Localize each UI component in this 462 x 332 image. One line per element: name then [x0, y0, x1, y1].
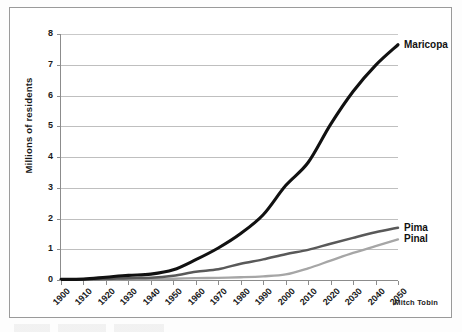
- y-tick-label-5: 5: [29, 121, 53, 130]
- series-label-pima: Pima: [404, 222, 428, 233]
- x-tick-mark-2050: [398, 281, 399, 285]
- y-tick-mark-1: [57, 249, 61, 250]
- x-tick-mark-1960: [196, 281, 197, 285]
- x-tick-mark-1940: [151, 281, 152, 285]
- x-tick-label-1940: 1940: [135, 286, 162, 313]
- x-tick-label-1910: 1910: [68, 286, 95, 313]
- x-tick-mark-1970: [218, 281, 219, 285]
- y-tick-label-0: 0: [29, 275, 53, 284]
- y-axis-tick-labels: 012345678: [29, 8, 53, 308]
- y-tick-mark-7: [57, 65, 61, 66]
- series-label-maricopa: Maricopa: [404, 39, 448, 50]
- x-tick-label-1920: 1920: [90, 286, 117, 313]
- y-tick-mark-0: [57, 280, 61, 281]
- y-tick-label-1: 1: [29, 244, 53, 253]
- x-tick-label-1990: 1990: [247, 286, 274, 313]
- x-tick-label-1930: 1930: [113, 286, 140, 313]
- figure-container: Millions of residents 012345678 19001910…: [0, 0, 462, 332]
- x-tick-mark-1980: [241, 281, 242, 285]
- y-tick-mark-2: [57, 219, 61, 220]
- x-tick-mark-2010: [308, 281, 309, 285]
- plot-area: [61, 34, 398, 280]
- y-tick-mark-6: [57, 96, 61, 97]
- x-tick-mark-1900: [61, 281, 62, 285]
- x-tick-label-1970: 1970: [202, 286, 229, 313]
- x-tick-label-1950: 1950: [158, 286, 185, 313]
- x-tick-mark-1910: [83, 281, 84, 285]
- x-tick-mark-2030: [353, 281, 354, 285]
- y-tick-label-2: 2: [29, 214, 53, 223]
- series-lines: [61, 34, 398, 280]
- x-tick-mark-1930: [128, 281, 129, 285]
- series-line-pinal: [61, 239, 398, 279]
- x-tick-mark-2040: [376, 281, 377, 285]
- caption-placeholder: [14, 324, 314, 332]
- x-tick-mark-2020: [331, 281, 332, 285]
- y-tick-label-7: 7: [29, 60, 53, 69]
- x-tick-label-1980: 1980: [225, 286, 252, 313]
- x-tick-label-2020: 2020: [315, 286, 342, 313]
- x-tick-label-2000: 2000: [270, 286, 297, 313]
- y-tick-label-3: 3: [29, 183, 53, 192]
- series-line-maricopa: [61, 45, 398, 280]
- x-tick-label-2030: 2030: [337, 286, 364, 313]
- y-tick-mark-5: [57, 126, 61, 127]
- x-tick-label-2010: 2010: [292, 286, 319, 313]
- y-tick-label-4: 4: [29, 152, 53, 161]
- y-tick-mark-3: [57, 188, 61, 189]
- x-tick-label-1960: 1960: [180, 286, 207, 313]
- x-tick-mark-2000: [286, 281, 287, 285]
- y-tick-mark-4: [57, 157, 61, 158]
- chart-frame: Millions of residents 012345678 19001910…: [9, 7, 452, 318]
- x-tick-mark-1920: [106, 281, 107, 285]
- y-tick-label-8: 8: [29, 29, 53, 38]
- x-tick-mark-1950: [173, 281, 174, 285]
- x-tick-label-2040: 2040: [360, 286, 387, 313]
- credit-text: Mitch Tobin: [394, 298, 438, 307]
- y-tick-mark-8: [57, 34, 61, 35]
- y-tick-label-6: 6: [29, 91, 53, 100]
- series-label-pinal: Pinal: [404, 233, 428, 244]
- x-tick-mark-1990: [263, 281, 264, 285]
